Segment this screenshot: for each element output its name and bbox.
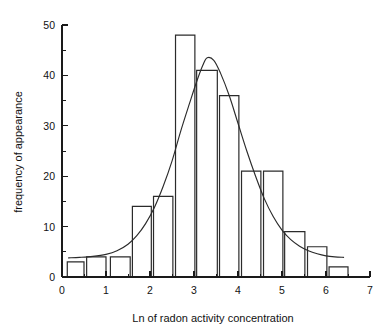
fitted-distribution-curve	[69, 57, 344, 257]
x-tick-label: 1	[103, 284, 109, 296]
histogram-bar	[285, 232, 305, 277]
histogram-bar	[67, 262, 84, 277]
histogram-bar	[176, 35, 195, 277]
x-tick-label: 2	[147, 284, 153, 296]
y-tick-label: 30	[43, 120, 55, 132]
chart-canvas: 01234567 01020304050 Ln of radon activit…	[0, 0, 388, 332]
histogram-bar	[264, 171, 283, 277]
x-tick-label: 0	[59, 284, 65, 296]
y-axis-title: frequency of appearance	[12, 91, 24, 213]
fitted-curve-layer	[69, 57, 344, 257]
x-axis-title: Ln of radon activity concentration	[132, 312, 293, 324]
histogram-bar	[110, 257, 130, 277]
histogram-bar	[329, 267, 348, 277]
histogram-bar	[220, 96, 239, 277]
y-tick-label: 0	[49, 271, 55, 283]
histogram-chart: 01234567 01020304050 Ln of radon activit…	[0, 0, 388, 332]
y-tick-label: 40	[43, 69, 55, 81]
y-axis-ticks	[62, 25, 68, 277]
histogram-bar	[154, 196, 173, 277]
x-axis-ticks	[62, 271, 370, 277]
histogram-bar	[242, 171, 261, 277]
y-axis-tick-labels: 01020304050	[43, 19, 55, 283]
y-tick-label: 50	[43, 19, 55, 31]
x-tick-label: 3	[191, 284, 197, 296]
histogram-bar	[87, 257, 106, 277]
histogram-bar	[132, 206, 151, 277]
x-tick-label: 5	[279, 284, 285, 296]
x-tick-label: 6	[323, 284, 329, 296]
histogram-bar	[197, 70, 218, 277]
y-tick-label: 10	[43, 221, 55, 233]
x-tick-label: 7	[367, 284, 373, 296]
bars-layer	[67, 35, 348, 277]
y-tick-label: 20	[43, 170, 55, 182]
x-tick-label: 4	[235, 284, 241, 296]
x-axis-tick-labels: 01234567	[59, 284, 373, 296]
